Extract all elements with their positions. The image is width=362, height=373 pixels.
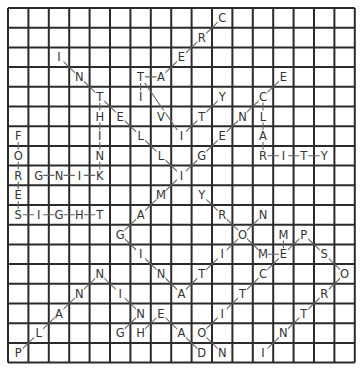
grid-letter: I bbox=[37, 208, 40, 222]
grid-letter: C bbox=[218, 11, 226, 25]
grid-letter: G bbox=[34, 169, 43, 183]
grid-letter: T bbox=[238, 287, 247, 301]
grid-letter: E bbox=[157, 307, 164, 321]
grid-letter: P bbox=[15, 346, 22, 360]
grid-letter: O bbox=[197, 326, 206, 340]
grid-letter: C bbox=[259, 267, 267, 281]
grid-letter: N bbox=[279, 326, 288, 340]
grid-letter: N bbox=[259, 208, 268, 222]
grid-letter: N bbox=[136, 307, 145, 321]
grid-letter: A bbox=[55, 307, 63, 321]
grid-letter: T bbox=[197, 267, 206, 281]
grid-letter: A bbox=[177, 326, 185, 340]
grid-letter: I bbox=[78, 169, 81, 183]
grid-letter: L bbox=[137, 129, 144, 143]
grid-letter: N bbox=[55, 169, 64, 183]
grid-letter: T bbox=[197, 110, 206, 124]
grid-letter: L bbox=[35, 326, 42, 340]
grid-letter: I bbox=[220, 247, 223, 261]
grid-letter: G bbox=[55, 208, 64, 222]
grid-letter: M bbox=[156, 188, 166, 202]
grid-letter: A bbox=[137, 208, 145, 222]
grid-letter: R bbox=[259, 149, 267, 163]
grid-letter: G bbox=[116, 228, 125, 242]
grid-letter: I bbox=[139, 90, 142, 104]
grid-letter: M bbox=[278, 228, 288, 242]
grid-letter: I bbox=[282, 149, 285, 163]
grid-letter: C bbox=[259, 90, 267, 104]
grid-letter: E bbox=[117, 110, 124, 124]
grid-letter: Y bbox=[218, 90, 227, 104]
grid-letter: E bbox=[219, 129, 226, 143]
grid-letter: R bbox=[14, 169, 22, 183]
grid-letter: D bbox=[197, 346, 206, 360]
grid-letter: O bbox=[340, 267, 349, 281]
grid-letter: I bbox=[98, 129, 101, 143]
grid-letter: S bbox=[321, 247, 328, 261]
grid-letter: Y bbox=[197, 188, 206, 202]
grid-letter: O bbox=[238, 228, 247, 242]
grid-letter: T bbox=[299, 307, 308, 321]
word-search-board: CRIENTAETIYCHEVTNLFILIEAONLGRITYRGNIKIEM… bbox=[0, 0, 362, 373]
grid-letter: G bbox=[197, 149, 206, 163]
grid-letter: O bbox=[14, 149, 23, 163]
grid-letter: A bbox=[157, 70, 165, 84]
word-grid: CRIENTAETIYCHEVTNLFILIEAONLGRITYRGNIKIEM… bbox=[0, 0, 362, 373]
grid-letter: H bbox=[75, 208, 84, 222]
grid-letter: I bbox=[180, 129, 183, 143]
grid-letter: P bbox=[300, 228, 307, 242]
grid-letter: F bbox=[15, 129, 22, 143]
word-line-planning bbox=[18, 274, 140, 353]
grid-letter: E bbox=[15, 188, 22, 202]
grid-letter: T bbox=[95, 208, 104, 222]
grid-letter: S bbox=[15, 208, 22, 222]
grid-letter: E bbox=[178, 50, 185, 64]
grid-letter: E bbox=[280, 70, 287, 84]
grid-letter: E bbox=[280, 247, 287, 261]
grid-letter: I bbox=[139, 247, 142, 261]
grid-letter: R bbox=[198, 31, 206, 45]
grid-letter: L bbox=[158, 149, 165, 163]
grid-letter: N bbox=[218, 346, 227, 360]
grid-letter: L bbox=[260, 110, 267, 124]
grid-letter: R bbox=[218, 208, 226, 222]
grid-letter: K bbox=[96, 169, 104, 183]
grid-letter: A bbox=[259, 129, 267, 143]
grid-letter: I bbox=[180, 169, 183, 183]
grid-letter: N bbox=[95, 149, 104, 163]
grid-letter: I bbox=[261, 346, 264, 360]
word-line-creativity bbox=[141, 18, 223, 136]
grid-letter: V bbox=[157, 110, 165, 124]
grid-letter: N bbox=[75, 70, 84, 84]
grid-letter: N bbox=[95, 267, 104, 281]
grid-letter: T bbox=[136, 70, 145, 84]
grid-letter: N bbox=[75, 287, 84, 301]
grid-letter: M bbox=[258, 247, 268, 261]
grid-letter: N bbox=[157, 267, 166, 281]
grid-letter: I bbox=[220, 307, 223, 321]
grid-letter: H bbox=[95, 110, 104, 124]
grid-letter: T bbox=[95, 90, 104, 104]
grid-letter: Y bbox=[320, 149, 329, 163]
grid-letter: I bbox=[118, 287, 121, 301]
grid-letter: H bbox=[136, 326, 145, 340]
grid-letter: T bbox=[299, 149, 308, 163]
grid-letter: G bbox=[116, 326, 125, 340]
grid-letter: I bbox=[57, 50, 60, 64]
grid-letter: N bbox=[238, 110, 247, 124]
grid-letter: A bbox=[177, 287, 185, 301]
grid-letter: R bbox=[320, 287, 328, 301]
